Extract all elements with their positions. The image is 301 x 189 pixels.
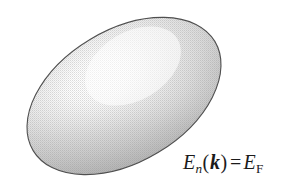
wavevector-symbol: k [210, 151, 220, 173]
energy-symbol: E [183, 151, 195, 173]
equals-sign: = [228, 151, 243, 173]
figure-container: En(k)=EF [0, 0, 301, 189]
close-paren: ) [220, 151, 228, 173]
fermi-subscript: F [256, 161, 263, 176]
fermi-surface-equation-label: En(k)=EF [183, 148, 295, 176]
open-paren: ( [202, 151, 210, 173]
fermi-energy-symbol: E [243, 151, 255, 173]
